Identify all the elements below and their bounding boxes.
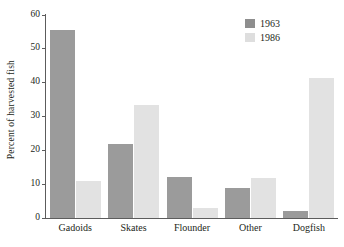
- bar: [283, 211, 308, 218]
- bar-group: Gadoids: [50, 15, 101, 218]
- y-axis-title-text: Percent of harvested fish: [6, 60, 16, 159]
- y-axis-tick-label: 50: [31, 42, 41, 53]
- y-axis-tick-mark: [42, 184, 46, 185]
- x-axis-category-label: Dogfish: [283, 222, 334, 234]
- x-axis-category-label: Other: [225, 222, 276, 234]
- chart-legend: 19631986: [245, 17, 315, 45]
- bar-group: Other: [225, 15, 276, 218]
- bar: [309, 78, 334, 218]
- bar-group: Flounder: [167, 15, 218, 218]
- y-axis-tick-mark: [42, 82, 46, 83]
- y-axis-tick-mark: [42, 218, 46, 219]
- bar-chart: Percent of harvested fish 0102030405060 …: [0, 0, 344, 247]
- bar: [251, 178, 276, 218]
- y-axis-tick-mark: [42, 48, 46, 49]
- x-axis-category-label: Flounder: [167, 222, 218, 234]
- x-axis-line: [45, 218, 338, 219]
- y-axis-tick-label: 20: [31, 144, 41, 155]
- y-axis-tick-mark: [42, 15, 46, 16]
- y-axis-title: Percent of harvested fish: [0, 0, 22, 220]
- y-axis-tick-label: 10: [31, 178, 41, 189]
- bar-group: Dogfish: [283, 15, 334, 218]
- y-axis-tick-label: 60: [31, 9, 41, 20]
- x-axis-category-label: Skates: [108, 222, 159, 234]
- bar: [193, 208, 218, 218]
- bar: [50, 30, 75, 218]
- y-axis-tick-label: 30: [31, 110, 41, 121]
- y-axis-tick-mark: [42, 150, 46, 151]
- legend-label: 1986: [260, 32, 280, 43]
- x-axis-category-label: Gadoids: [50, 222, 101, 234]
- y-axis-tick-label: 0: [35, 212, 40, 223]
- legend-color-swatch: [245, 33, 255, 42]
- legend-item: 1963: [245, 17, 315, 30]
- legend-color-swatch: [245, 19, 255, 28]
- bar: [225, 188, 250, 218]
- bar: [167, 177, 192, 218]
- y-axis-tick-mark: [42, 116, 46, 117]
- legend-item: 1986: [245, 31, 315, 44]
- y-axis-tick-label: 40: [31, 76, 41, 87]
- bar: [76, 181, 101, 218]
- bar: [134, 105, 159, 218]
- bar: [108, 144, 133, 218]
- bar-group: Skates: [108, 15, 159, 218]
- legend-label: 1963: [260, 18, 280, 29]
